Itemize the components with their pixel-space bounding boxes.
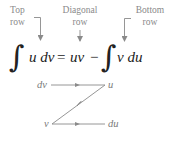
z-label-dv: dv xyxy=(37,79,47,90)
rhs-integrand: v du xyxy=(117,49,142,65)
diagram-lines xyxy=(0,0,169,145)
rhs-integral-sign: ∫ xyxy=(101,41,117,73)
z-label-u: u xyxy=(108,79,113,90)
z-bottom-arrow-icon xyxy=(75,122,80,126)
top-row-pointer-arrow xyxy=(34,18,41,41)
z-label-v: v xyxy=(44,118,49,129)
equals-sign: = xyxy=(57,49,65,65)
integration-by-parts-diagram: Top row Diagonal row Bottom row xyxy=(0,0,169,145)
z-diagonal-arrow-icon xyxy=(77,102,81,106)
z-label-du: du xyxy=(108,118,119,129)
z-diagonal-line xyxy=(52,85,105,124)
z-top-line xyxy=(51,83,105,87)
uv-product: uv xyxy=(70,49,84,65)
lhs-integrand: u dv xyxy=(29,49,54,65)
bottom-row-pointer-arrow xyxy=(125,19,132,42)
lhs-integral-sign: ∫ xyxy=(9,41,25,73)
z-bottom-line xyxy=(52,122,105,126)
minus-sign: − xyxy=(90,49,98,65)
z-top-arrow-icon xyxy=(75,83,80,87)
